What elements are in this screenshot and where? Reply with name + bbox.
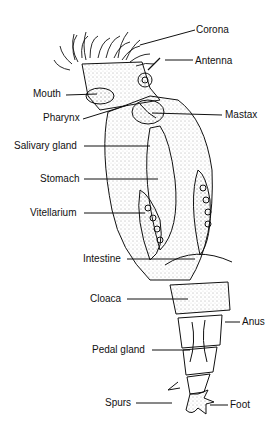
label-pedal-gland: Pedal gland	[92, 344, 145, 356]
label-intestine: Intestine	[83, 253, 121, 265]
label-salivary-gland: Salivary gland	[14, 140, 77, 152]
label-foot: Foot	[230, 399, 250, 411]
label-antenna: Antenna	[195, 55, 232, 67]
label-cloaca: Cloaca	[90, 293, 121, 305]
label-vitellarium: Vitellarium	[30, 207, 77, 219]
label-corona: Corona	[196, 24, 229, 36]
label-mouth: Mouth	[33, 88, 61, 100]
label-anus: Anus	[242, 316, 265, 328]
label-stomach: Stomach	[40, 173, 79, 185]
label-mastax: Mastax	[225, 109, 257, 121]
label-pharynx: Pharynx	[43, 112, 80, 124]
label-spurs: Spurs	[105, 397, 131, 409]
